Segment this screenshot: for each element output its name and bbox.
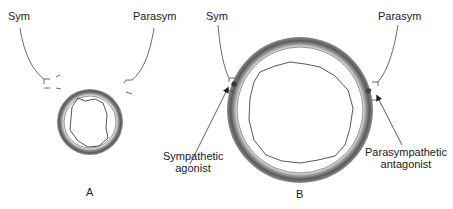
panel-a-eye: [20, 28, 154, 155]
parasym-label-b: Parasym: [378, 10, 421, 22]
sym-nerve-a: [20, 28, 44, 79]
sym-label-a: Sym: [8, 10, 30, 22]
panel-a-letter: A: [86, 186, 93, 198]
sympathetic-agonist-label: Sympathetic agonist: [163, 150, 223, 174]
parasym-nerve-b: [378, 25, 398, 82]
parasym-nerve-a: [132, 28, 154, 80]
sym-label-b: Sym: [206, 10, 228, 22]
sym-nerve-b: [218, 25, 229, 78]
parasym-label-a: Parasym: [133, 10, 176, 22]
sympathetic-agonist-dot: [231, 81, 236, 86]
panel-b-letter: B: [296, 188, 303, 200]
parasympathetic-antagonist-label: Parasympathetic antagonist: [363, 146, 449, 170]
parasympathetic-antagonist-arrow: [377, 96, 402, 145]
pupil-diagram: [0, 0, 453, 209]
